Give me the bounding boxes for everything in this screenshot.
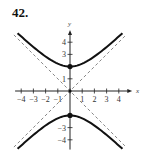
vertex-point [67, 64, 72, 69]
x-tick-label: 4 [117, 95, 121, 104]
x-tick-label: −1 [54, 95, 63, 104]
vertex-point [67, 113, 72, 118]
y-axis-label: y [67, 20, 72, 28]
y-tick-label: 3 [62, 50, 66, 59]
y-axis-arrow-icon [68, 30, 72, 35]
hyperbola-plot: xy−4−3−2−11234−4−3134 [0, 0, 145, 161]
center-point [68, 89, 71, 92]
x-axis-label: x [135, 87, 140, 95]
x-tick-label: 3 [105, 95, 109, 104]
x-tick-label: −2 [41, 95, 50, 104]
y-tick-label: −4 [57, 136, 66, 145]
y-tick-label: −3 [57, 124, 66, 133]
y-tick-label: 4 [62, 38, 66, 47]
x-tick-label: −4 [17, 95, 26, 104]
x-tick-label: −3 [29, 95, 38, 104]
axes [15, 30, 132, 150]
y-tick-label: 1 [62, 75, 66, 84]
x-tick-label: 2 [92, 95, 96, 104]
x-axis-arrow-icon [127, 89, 132, 93]
x-tick-label: 1 [80, 95, 84, 104]
